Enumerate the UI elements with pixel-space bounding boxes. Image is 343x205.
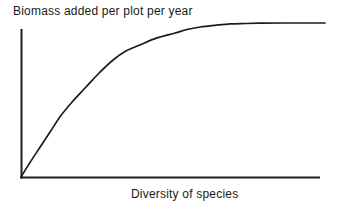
biomass-diversity-chart: Biomass added per plot per year Diversit… — [0, 0, 343, 205]
chart-canvas — [0, 0, 343, 205]
biomass-curve — [21, 23, 325, 177]
x-axis-label: Diversity of species — [131, 187, 238, 201]
